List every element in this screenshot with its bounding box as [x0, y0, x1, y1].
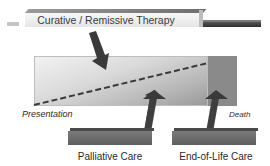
trajectory-dashed-line — [34, 63, 208, 105]
palliative-care-label: Palliative Care — [60, 151, 160, 162]
down-arrow-icon — [89, 31, 109, 70]
end-of-life-care-bar — [172, 131, 256, 145]
death-label: Death — [229, 110, 250, 119]
up-arrow-icon-eol — [205, 90, 228, 99]
palliative-care-bar — [68, 131, 152, 145]
presentation-label: Presentation — [22, 109, 73, 119]
end-of-life-care-label: End-of-Life Care — [166, 151, 266, 162]
